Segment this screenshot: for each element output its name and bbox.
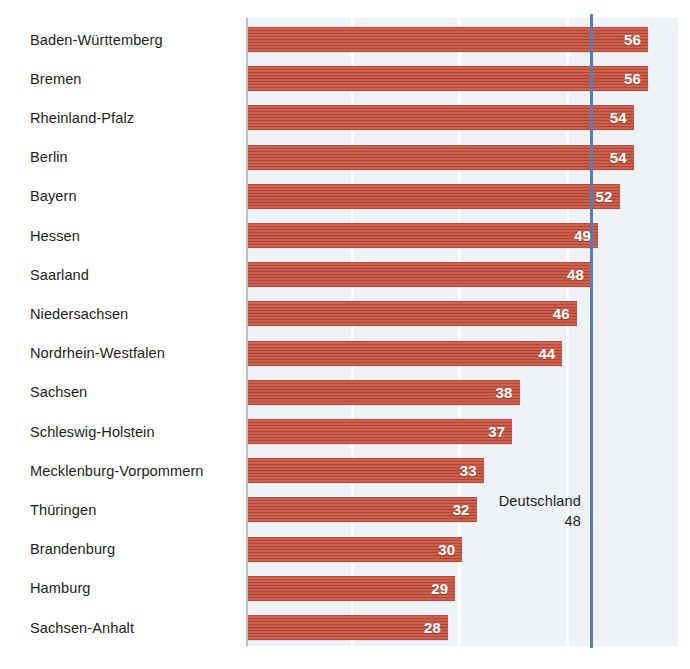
bar-value-label: 56 bbox=[624, 66, 641, 91]
bar-category-label: Bremen bbox=[30, 59, 82, 98]
bar-track: 30 bbox=[248, 537, 462, 562]
bar[interactable]: 54 bbox=[248, 105, 634, 130]
bar-row[interactable]: Niedersachsen46 bbox=[0, 294, 690, 333]
bar[interactable]: 29 bbox=[248, 576, 455, 601]
bar-value-label: 30 bbox=[438, 537, 455, 562]
bar-track: 52 bbox=[248, 184, 620, 209]
bar-track: 44 bbox=[248, 341, 562, 366]
bar-category-label: Berlin bbox=[30, 138, 68, 177]
bar[interactable]: 37 bbox=[248, 419, 512, 444]
bar-track: 54 bbox=[248, 105, 634, 130]
bar-track: 46 bbox=[248, 301, 577, 326]
bar-row[interactable]: Hessen49 bbox=[0, 216, 690, 255]
bar-row[interactable]: Schleswig-Holstein37 bbox=[0, 412, 690, 451]
bar[interactable]: 46 bbox=[248, 301, 577, 326]
bar[interactable]: 38 bbox=[248, 380, 520, 405]
bar-track: 56 bbox=[248, 66, 648, 91]
bar-value-label: 33 bbox=[460, 458, 477, 483]
bar-category-label: Bayern bbox=[30, 177, 77, 216]
bar-category-label: Rheinland-Pfalz bbox=[30, 98, 134, 137]
bar-row[interactable]: Berlin54 bbox=[0, 138, 690, 177]
bar-rows: Baden-Württemberg56Bremen56Rheinland-Pfa… bbox=[0, 0, 690, 669]
bar[interactable]: 48 bbox=[248, 262, 591, 287]
bar[interactable]: 28 bbox=[248, 615, 448, 640]
bar-value-label: 54 bbox=[610, 105, 627, 130]
bar-category-label: Sachsen bbox=[30, 373, 87, 412]
bar[interactable]: 56 bbox=[248, 27, 648, 52]
bar-row[interactable]: Bremen56 bbox=[0, 59, 690, 98]
bar[interactable]: 54 bbox=[248, 145, 634, 170]
bar-category-label: Hamburg bbox=[30, 569, 91, 608]
bar[interactable]: 44 bbox=[248, 341, 562, 366]
bar-value-label: 32 bbox=[453, 497, 470, 522]
bar-track: 54 bbox=[248, 145, 634, 170]
reference-value: 48 bbox=[481, 512, 581, 531]
bar-row[interactable]: Rheinland-Pfalz54 bbox=[0, 98, 690, 137]
reference-label: Deutschland bbox=[499, 493, 581, 509]
bar-category-label: Nordrhein-Westfalen bbox=[30, 334, 165, 373]
bar[interactable]: 33 bbox=[248, 458, 484, 483]
bar-value-label: 54 bbox=[610, 145, 627, 170]
bar-track: 29 bbox=[248, 576, 455, 601]
bar-value-label: 52 bbox=[596, 184, 613, 209]
bar-value-label: 38 bbox=[496, 380, 513, 405]
bar-category-label: Baden-Württemberg bbox=[30, 20, 163, 59]
reference-annotation: Deutschland 48 bbox=[481, 492, 581, 530]
bar-chart: Baden-Württemberg56Bremen56Rheinland-Pfa… bbox=[0, 0, 690, 669]
bar-row[interactable]: Mecklenburg-Vorpommern33 bbox=[0, 451, 690, 490]
bar-value-label: 48 bbox=[567, 262, 584, 287]
bar-track: 48 bbox=[248, 262, 591, 287]
bar-value-label: 56 bbox=[624, 27, 641, 52]
bar-track: 33 bbox=[248, 458, 484, 483]
bar-row[interactable]: Thüringen32 bbox=[0, 490, 690, 529]
bar-category-label: Schleswig-Holstein bbox=[30, 412, 155, 451]
bar-row[interactable]: Brandenburg30 bbox=[0, 530, 690, 569]
bar-category-label: Mecklenburg-Vorpommern bbox=[30, 451, 204, 490]
bar-value-label: 44 bbox=[538, 341, 555, 366]
bar-row[interactable]: Bayern52 bbox=[0, 177, 690, 216]
bar[interactable]: 32 bbox=[248, 497, 477, 522]
bar-track: 28 bbox=[248, 615, 448, 640]
bar-track: 32 bbox=[248, 497, 477, 522]
bar-category-label: Saarland bbox=[30, 255, 89, 294]
bar[interactable]: 52 bbox=[248, 184, 620, 209]
bar-row[interactable]: Hamburg29 bbox=[0, 569, 690, 608]
bar-category-label: Niedersachsen bbox=[30, 294, 128, 333]
bar-category-label: Brandenburg bbox=[30, 530, 115, 569]
bar-category-label: Hessen bbox=[30, 216, 80, 255]
bar-track: 38 bbox=[248, 380, 520, 405]
bar-track: 37 bbox=[248, 419, 512, 444]
bar[interactable]: 30 bbox=[248, 537, 462, 562]
bar-category-label: Thüringen bbox=[30, 490, 96, 529]
bar[interactable]: 56 bbox=[248, 66, 648, 91]
bar-value-label: 46 bbox=[553, 301, 570, 326]
bar-track: 56 bbox=[248, 27, 648, 52]
bar[interactable]: 49 bbox=[248, 223, 598, 248]
bar-value-label: 29 bbox=[431, 576, 448, 601]
bar-value-label: 49 bbox=[574, 223, 591, 248]
bar-value-label: 37 bbox=[488, 419, 505, 444]
bar-value-label: 28 bbox=[424, 615, 441, 640]
bar-row[interactable]: Saarland48 bbox=[0, 255, 690, 294]
bar-row[interactable]: Nordrhein-Westfalen44 bbox=[0, 334, 690, 373]
bar-row[interactable]: Sachsen38 bbox=[0, 373, 690, 412]
reference-line-deutschland bbox=[590, 14, 593, 648]
bar-track: 49 bbox=[248, 223, 598, 248]
bar-row[interactable]: Baden-Württemberg56 bbox=[0, 20, 690, 59]
bar-category-label: Sachsen-Anhalt bbox=[30, 608, 134, 647]
bar-row[interactable]: Sachsen-Anhalt28 bbox=[0, 608, 690, 647]
